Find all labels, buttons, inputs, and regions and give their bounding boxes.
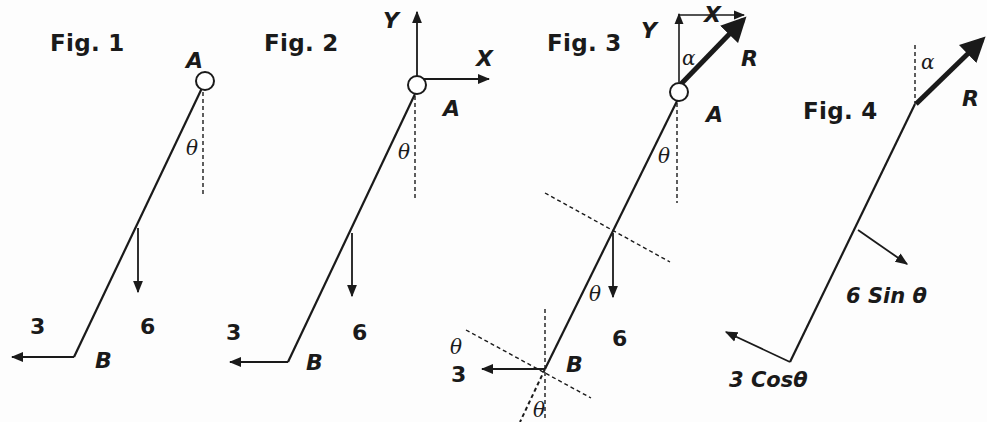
rod	[74, 88, 202, 357]
y-axis-label: Y	[641, 20, 657, 42]
pivot-circle	[408, 76, 426, 94]
end-label-b: B	[95, 350, 112, 372]
figure-3	[466, 14, 744, 422]
figure-4-title: Fig. 4	[803, 100, 878, 123]
weight-label: 6	[140, 316, 155, 338]
reaction-angle-alpha: α	[682, 48, 696, 68]
horizontal-force-label: 3	[451, 364, 466, 386]
pivot-label-a: A	[706, 104, 723, 126]
weight-label: 6	[352, 322, 367, 344]
figure-3-title: Fig. 3	[547, 32, 622, 55]
pivot-circle	[670, 83, 688, 101]
normal-component-arrow	[858, 230, 907, 264]
horizontal-component-label: 3 Cosθ	[729, 370, 808, 391]
horizontal-component-arrow	[726, 332, 790, 362]
horizontal-force-label: 3	[30, 316, 45, 338]
x-axis-label: X	[476, 48, 493, 70]
angle-label-theta-weight: θ	[589, 284, 601, 304]
angle-label-theta-b-lower: θ	[533, 400, 545, 420]
weight-label: 6	[612, 328, 627, 350]
rod	[790, 104, 915, 362]
free-body-diagrams: Fig. 1 A θ 3 6 B Fig. 2 Y X A θ 3 6 B Fi…	[0, 0, 987, 422]
angle-label-theta-top: θ	[658, 146, 670, 166]
diagram-canvas	[0, 0, 987, 422]
pivot-label-a: A	[186, 50, 203, 72]
figure-4	[726, 40, 982, 362]
reaction-angle-alpha: α	[921, 52, 935, 72]
figure-2-title: Fig. 2	[264, 32, 339, 55]
horizontal-force-label: 3	[226, 322, 241, 344]
perpendicular-dashed-middle	[545, 193, 670, 262]
end-label-b: B	[566, 354, 583, 376]
weight-component-label: 6 Sin θ	[846, 286, 927, 307]
angle-label-theta-b-upper: θ	[450, 337, 462, 357]
angle-label-theta: θ	[398, 142, 410, 162]
y-axis-label: Y	[383, 10, 399, 32]
reaction-label-r: R	[962, 88, 979, 110]
figure-1-title: Fig. 1	[50, 32, 125, 55]
pivot-label-a: A	[443, 98, 460, 120]
end-label-b: B	[306, 352, 323, 374]
pivot-circle	[196, 72, 214, 90]
angle-label-theta: θ	[186, 138, 198, 158]
x-axis-label: X	[704, 4, 721, 26]
reaction-label-r: R	[741, 48, 758, 70]
figure-2	[230, 12, 489, 362]
